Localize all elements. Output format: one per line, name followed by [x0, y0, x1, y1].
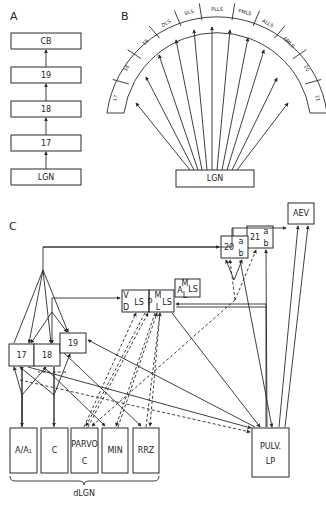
dlgn-layer-a-label: A/A₁ — [15, 446, 32, 455]
b-target-vls: VLS — [184, 8, 195, 16]
area-dls-d: D — [123, 303, 129, 312]
b-target-dls: DLS — [160, 18, 171, 28]
b-target-20: 20 — [303, 64, 311, 73]
dlgn-layer-min-label: MIN — [107, 446, 122, 455]
area-amls-ls: LS — [188, 285, 198, 294]
area-c18-label: 18 — [42, 351, 52, 360]
area-20b-label: b — [238, 249, 243, 258]
dashed-connections — [20, 250, 256, 432]
area-c19-label: 19 — [68, 339, 78, 348]
b-target-17: 17 — [111, 94, 118, 102]
b-fan-arrows — [136, 27, 288, 170]
b-target-pmls: PMLS — [238, 7, 252, 16]
b-target-19: 19 — [141, 38, 150, 47]
panel-c-label: C — [9, 220, 17, 233]
pulvinar-label: PULV. — [260, 442, 281, 451]
dlgn-parvo-c-label: C — [82, 457, 88, 466]
lgn-label: LGN — [38, 173, 55, 182]
arc-segments — [107, 3, 326, 113]
area-cb-label: CB — [40, 37, 51, 46]
dlgn-brace — [10, 476, 159, 485]
area-20a-label: a — [239, 237, 244, 246]
dlgn-parvo-label: PARVO — [71, 440, 98, 449]
b-target-18: 18 — [122, 64, 130, 73]
lp-label: LP — [266, 457, 275, 466]
panel-b-label: B — [121, 10, 129, 23]
b-lgn-label: LGN — [207, 174, 224, 183]
area-21b-label: b — [263, 239, 268, 248]
b-target-amls: AMLS — [282, 35, 296, 49]
panel-c: C AEV 21 a b 20 a b A M L LS V D LS P M … — [9, 203, 314, 498]
area-plls-p: P — [148, 298, 153, 307]
area-pmls-ls: LS — [162, 298, 172, 307]
area-amls-l: L — [183, 291, 188, 300]
area-pmls-l: L — [156, 303, 161, 312]
panel-a: A CB 19 18 17 LGN — [10, 10, 81, 185]
panel-b: B 17 18 19 DLS VLS PLLS PMLS ALLS AML — [107, 3, 326, 187]
area-vls-ls: LS — [134, 298, 144, 307]
dlgn-layer-c-label: C — [52, 446, 58, 455]
pulvinar-lp-box — [252, 428, 289, 477]
b-target-21: 21 — [314, 94, 321, 102]
dlgn-group-label: dLGN — [73, 489, 95, 498]
arc-outer — [107, 17, 326, 113]
area-aev-label: AEV — [293, 209, 310, 218]
area-18-label: 18 — [41, 105, 51, 114]
dlgn-layer-rrz-label: RRZ — [138, 446, 155, 455]
area-19-label: 19 — [41, 71, 51, 80]
area-pmls-m: M — [155, 291, 162, 300]
visual-pathways-diagram: A CB 19 18 17 LGN B — [0, 0, 326, 508]
panel-a-label: A — [10, 10, 18, 23]
b-target-plls: PLLS — [211, 6, 223, 12]
area-vls-v: V — [123, 291, 129, 300]
solid-connections — [14, 226, 308, 428]
dlgn-parvo-c-box — [71, 428, 98, 473]
arc-inner — [124, 33, 310, 113]
area-c17-label: 17 — [16, 351, 26, 360]
area-17-label: 17 — [41, 139, 51, 148]
area-21-label: 21 — [250, 233, 260, 242]
